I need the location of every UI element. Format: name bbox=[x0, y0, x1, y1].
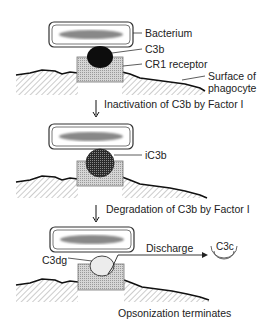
bacterium bbox=[50, 227, 134, 252]
step-1-arrow: Inactivation of C3b by Factor I bbox=[93, 98, 243, 117]
label-c3c: C3c bbox=[216, 241, 234, 252]
stage-3: C3dg Discharge C3c bbox=[16, 227, 237, 302]
label-discharge: Discharge bbox=[146, 242, 193, 254]
label-step-2: Degradation of C3b by Factor I bbox=[106, 203, 250, 215]
stage-1: Bacterium C3b CR1 receptor Surface of ph… bbox=[16, 22, 257, 95]
label-footer: Opsonization terminates bbox=[118, 307, 231, 319]
label-cr1-receptor: CR1 receptor bbox=[145, 58, 208, 70]
bacterium bbox=[49, 124, 133, 149]
complement-inactivation-diagram: Bacterium C3b CR1 receptor Surface of ph… bbox=[0, 0, 273, 327]
label-step-1: Inactivation of C3b by Factor I bbox=[104, 98, 243, 110]
label-bacterium: Bacterium bbox=[145, 27, 193, 39]
ic3b-molecule bbox=[86, 149, 114, 177]
discharge-arrow bbox=[112, 252, 208, 268]
label-ic3b: iC3b bbox=[145, 149, 167, 161]
label-c3b: C3b bbox=[145, 43, 164, 55]
step-2-arrow: Degradation of C3b by Factor I bbox=[93, 203, 250, 222]
bacterium bbox=[49, 22, 133, 47]
label-surface-line1: Surface of bbox=[208, 70, 256, 82]
label-surface-line2: phagocyte bbox=[208, 82, 257, 94]
c3b-molecule bbox=[87, 46, 113, 68]
label-c3dg: C3dg bbox=[42, 254, 67, 266]
c3dg-molecule bbox=[90, 256, 114, 276]
stage-2: iC3b bbox=[16, 124, 207, 198]
